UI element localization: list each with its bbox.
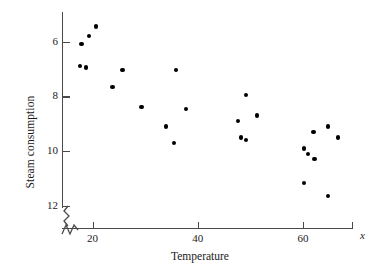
x-axis-end-tick: [352, 222, 353, 229]
data-point: [302, 181, 306, 185]
x-tick-60: [303, 222, 304, 229]
y-axis-label: Steam consumption: [24, 72, 36, 212]
data-point: [336, 135, 340, 139]
scatter-plot-figure: 121086 204060 Steam consumption Temperat…: [0, 0, 378, 274]
y-tick-label-text: 6: [34, 36, 58, 47]
y-tick-10: [63, 96, 70, 97]
data-point: [244, 138, 248, 142]
data-point: [306, 152, 310, 156]
x-axis-line: [62, 228, 352, 229]
data-point: [239, 135, 243, 139]
y-tick-label-text: 8: [34, 90, 58, 101]
x-axis-break-icon: [60, 222, 80, 236]
x-tick-label-60: 60: [288, 232, 318, 244]
data-point: [172, 141, 176, 145]
x-tick-40: [198, 222, 199, 229]
data-point: [326, 124, 330, 128]
data-point: [120, 68, 124, 72]
data-point: [236, 119, 240, 123]
data-point: [255, 113, 259, 117]
x-tick-label-40: 40: [183, 232, 213, 244]
x-axis-label: Temperature: [120, 250, 280, 262]
data-point: [184, 107, 188, 111]
y-tick-8: [63, 151, 70, 152]
data-point: [94, 24, 98, 28]
data-point: [78, 64, 82, 68]
y-tick-12: [63, 42, 70, 43]
data-point: [87, 34, 91, 38]
x-axis-variable-symbol: x: [360, 229, 365, 241]
data-point: [139, 105, 143, 109]
x-tick-20: [93, 222, 94, 229]
y-tick-label-text: 10: [34, 145, 58, 156]
data-point: [244, 93, 248, 97]
data-point: [311, 130, 315, 134]
y-tick-label-12: 6: [28, 36, 58, 47]
x-tick-label-20: 20: [78, 232, 108, 244]
data-point: [302, 146, 306, 150]
data-point: [174, 68, 178, 72]
data-point: [79, 42, 83, 46]
data-point: [164, 124, 168, 128]
y-axis-label-box: Steam consumption: [8, 40, 24, 180]
data-point: [326, 194, 330, 198]
data-point: [110, 85, 114, 89]
data-point: [312, 157, 316, 161]
data-point: [84, 65, 88, 69]
